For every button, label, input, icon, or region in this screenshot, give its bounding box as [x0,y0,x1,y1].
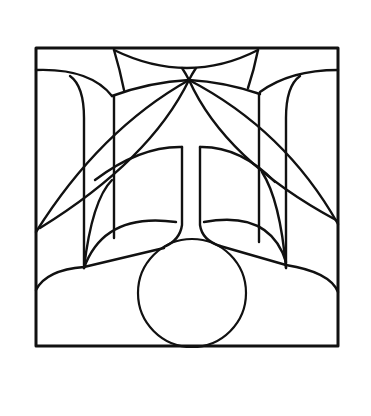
lobe-left [84,220,176,268]
top-right-spoke [248,50,258,88]
upper-left-ledge [36,70,112,96]
lobe-right [204,220,286,262]
bowtie-left [182,68,189,80]
stem-left [164,147,182,247]
pattern-lines [36,50,338,292]
right-petal-inner [189,80,336,220]
upper-right-inner [286,76,300,268]
left-lower-diagonal [84,180,112,268]
left-petal-outer [36,80,189,232]
stained-glass-drawing [0,0,371,416]
top-left-spoke [114,50,124,90]
central-circle [138,239,246,347]
upper-left-inner [70,76,84,268]
bowtie-right [189,68,196,80]
upper-right-ledge [260,70,338,92]
stem-right [200,147,220,246]
shoulder-right [220,246,338,292]
right-petal-outer [189,80,338,224]
top-arc [114,50,258,68]
